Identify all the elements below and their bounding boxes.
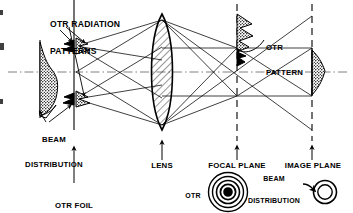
figure-canvas: OTR RADIATION PATTERNS BEAM DISTRIBUTION… — [0, 0, 353, 213]
label-otr-pattern-imaged: OTR PATTERN IMAGED — [172, 177, 214, 213]
lens-element — [152, 14, 173, 130]
label-otr-pattern-line1: OTR — [266, 44, 303, 52]
label-otr-radiation-patterns: OTR RADIATION PATTERNS — [50, 2, 120, 74]
label-otr-foil: OTR FOIL (OBJECT PLANE) — [12, 186, 136, 213]
otr-pattern-profile — [237, 14, 253, 66]
label-otr-radiation-patterns-line1: OTR RADIATION — [50, 20, 120, 29]
label-beam-distribution-imaged-line1: BEAM — [243, 175, 305, 182]
left-edge-crop-fragments — [0, 10, 4, 104]
otr-pattern-imaged — [209, 173, 248, 212]
beam-distribution-imaged-profile — [312, 48, 325, 96]
label-otr-radiation-patterns-line2: PATTERNS — [50, 47, 120, 56]
label-otr-foil-line1: OTR FOIL — [12, 202, 136, 210]
label-beam-distribution: BEAM DISTRIBUTION — [0, 120, 108, 185]
label-lens: LENS — [140, 162, 184, 170]
label-beam-distribution-line1: BEAM — [0, 136, 108, 144]
label-beam-distribution-imaged: BEAM DISTRIBUTION IMAGED — [243, 160, 305, 213]
label-otr-pattern: OTR PATTERN — [266, 28, 303, 93]
label-beam-distribution-imaged-line2: DISTRIBUTION — [243, 197, 305, 204]
beam-distribution-imaged — [314, 181, 337, 204]
label-otr-pattern-imaged-line1: OTR — [172, 192, 214, 199]
label-otr-pattern-line2: PATTERN — [266, 69, 303, 77]
label-beam-distribution-line2: DISTRIBUTION — [0, 161, 108, 169]
